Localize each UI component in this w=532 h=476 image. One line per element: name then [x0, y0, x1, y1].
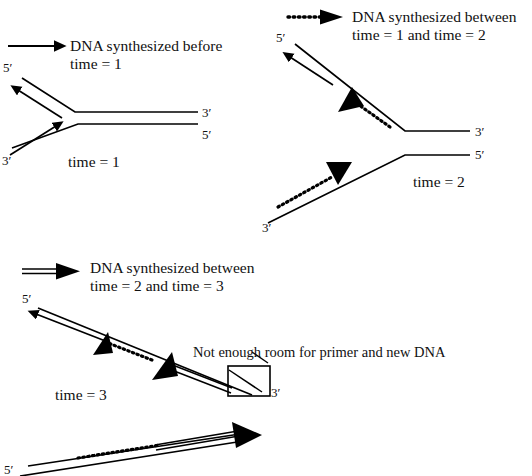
time-label-time-1: time = 1: [68, 153, 120, 170]
legend-3-line-2: time = 2 and time = 3: [90, 277, 224, 294]
end-label-box-right-time-3: 3′: [271, 385, 281, 400]
end-label-upper-left-time-2: 5′: [276, 30, 286, 45]
end-label-lower-left-time-1: 3′: [2, 153, 12, 168]
end-label-upper-left-time-1: 5′: [3, 60, 13, 75]
end-label-upper-left-time-3: 5′: [22, 291, 32, 306]
legend-2-line-2: time = 1 and time = 2: [352, 26, 486, 43]
annotation-not-enough-room: Not enough room for primer and new DNA: [193, 344, 446, 360]
legend-2-line-1: DNA synthesized between: [352, 8, 517, 25]
legend-1-line-2: time = 1: [70, 55, 122, 72]
end-label-bottom-left-time-3: 5′: [4, 462, 14, 476]
time-label-time-3: time = 3: [55, 386, 107, 403]
end-label-lower-right-time-2: 5′: [475, 147, 485, 162]
time-label-time-2: time = 2: [413, 173, 465, 190]
end-label-lower-right-time-1: 5′: [202, 127, 212, 142]
end-label-upper-right-time-2: 3′: [475, 124, 485, 139]
legend-1-line-1: DNA synthesized before: [70, 37, 222, 54]
legend-3-line-1: DNA synthesized between: [90, 259, 255, 276]
end-label-upper-right-time-1: 3′: [202, 105, 212, 120]
end-label-lower-left-time-2: 3′: [262, 220, 272, 235]
dna-replication-diagram: DNA synthesized before time = 1 DNA synt…: [0, 0, 532, 476]
